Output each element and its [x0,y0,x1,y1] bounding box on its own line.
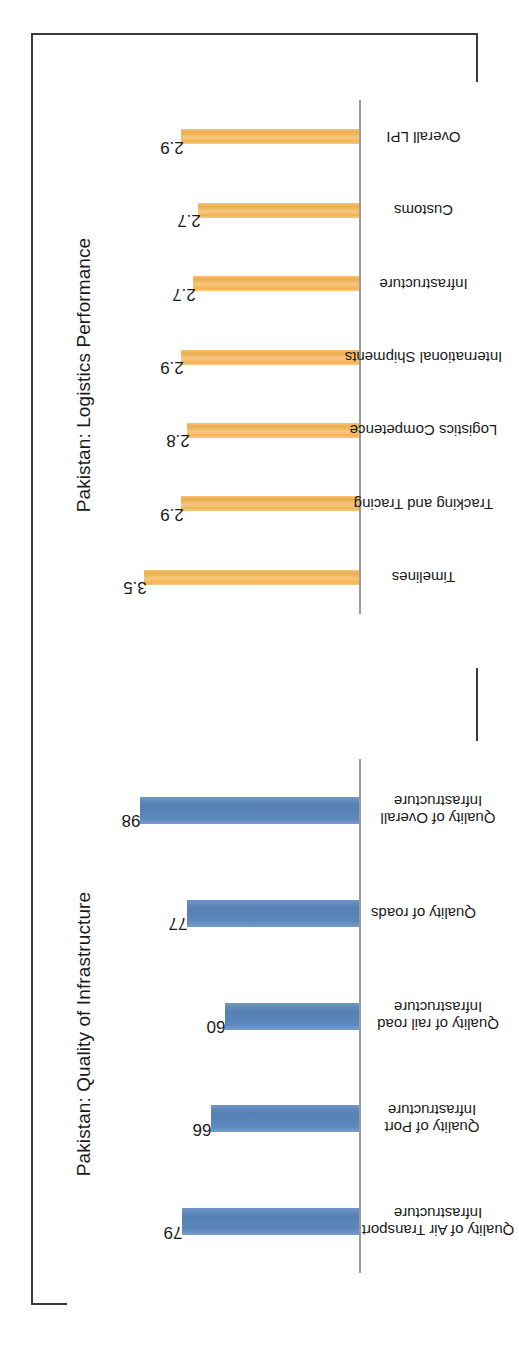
scanned-page-frame: Pakistan: Logistics Performance 3.5 2.9 [31,33,478,1305]
cat-slot: Customs [363,173,482,246]
bar[interactable]: 2.9 [181,496,359,511]
chart-title-infrastructure: Pakistan: Quality of Infrastructure [73,741,95,1327]
plot-area-logistics: 3.5 2.9 2.8 [113,100,361,614]
bar[interactable]: 2.9 [181,129,359,144]
chart-title-logistics: Pakistan: Logistics Performance [73,82,95,668]
bar-slot: 2.8 [113,394,359,467]
cat-slot: International Shipments [363,320,482,393]
bar-value-label: 2.8 [166,430,190,450]
plot-area-infrastructure: 79 66 60 77 [113,759,361,1273]
cat-slot: Tracking and Tracing [363,467,482,540]
bar-value-label: 77 [168,913,187,933]
cat-slot: Quality of Air Transport Infrastructure [363,1170,482,1273]
bar-value-label: 66 [193,1119,212,1139]
chart-logistics-performance: Pakistan: Logistics Performance 3.5 2.9 [67,82,482,668]
cat-slot: Quality of Overall Infrastructure [363,759,482,862]
category-labels-infrastructure: Quality of Air Transport Infrastructure … [363,759,482,1273]
category-labels-logistics: Timelines Tracking and Tracing Logistics… [363,100,482,614]
bar[interactable]: 66 [211,1105,359,1132]
chart-canvas-infrastructure: Pakistan: Quality of Infrastructure 79 6… [67,741,482,1327]
bar-slot: 2.7 [113,173,359,246]
bar-slot: 77 [113,862,359,965]
cat-slot: Quality of rail road Infrastructure [363,965,482,1068]
category-label: Quality of Port Infrastructure [342,1102,519,1136]
chart-quality-of-infrastructure: Pakistan: Quality of Infrastructure 79 6… [67,741,482,1327]
category-label: Quality of Air Transport Infrastructure [348,1205,519,1239]
category-label: Infrastructure [334,275,514,292]
bar[interactable]: 3.5 [144,570,359,585]
bar-slot: 79 [113,1170,359,1273]
bar-value-label: 2.7 [177,210,201,230]
cat-slot: Timelines [363,541,482,614]
cat-slot: Quality of roads [363,862,482,965]
bar[interactable]: 79 [182,1208,359,1235]
category-label: Logistics Competence [334,422,514,439]
bar-slot: 2.9 [113,467,359,540]
category-label: Timelines [334,569,514,586]
bar-value-label: 98 [122,810,141,830]
bar-value-label: 3.5 [123,577,147,597]
bar-group-logistics: 3.5 2.9 2.8 [113,100,359,614]
bar-value-label: 79 [164,1222,183,1242]
category-label: Quality of roads [334,905,514,922]
bar-slot: 98 [113,759,359,862]
bar-slot: 60 [113,965,359,1068]
cat-slot: Infrastructure [363,247,482,320]
bar-slot: 2.9 [113,320,359,393]
bar[interactable]: 2.9 [181,350,359,365]
category-label: International Shipments [334,349,514,366]
bar-slot: 2.7 [113,247,359,320]
category-label: Overall LPI [334,128,514,145]
bar-value-label: 2.9 [160,504,184,524]
bar-value-label: 2.9 [160,357,184,377]
cat-slot: Quality of Port Infrastructure [363,1067,482,1170]
bar-value-label: 2.7 [172,284,196,304]
cat-slot: Logistics Competence [363,394,482,467]
category-label: Quality of Overall Infrastructure [348,793,519,827]
bar[interactable]: 60 [225,1003,359,1030]
bar-slot: 66 [113,1067,359,1170]
bar-value-label: 60 [206,1016,225,1036]
bar-group-infrastructure: 79 66 60 77 [113,759,359,1273]
bar-slot: 3.5 [113,541,359,614]
bar[interactable]: 98 [140,797,359,824]
cat-slot: Overall LPI [363,100,482,173]
category-label: Tracking and Tracing [334,495,514,512]
bar-value-label: 2.9 [160,137,184,157]
bar-slot: 2.9 [113,100,359,173]
category-label: Quality of rail road Infrastructure [348,999,519,1033]
category-label: Customs [334,202,514,219]
chart-canvas-logistics: Pakistan: Logistics Performance 3.5 2.9 [67,82,482,668]
